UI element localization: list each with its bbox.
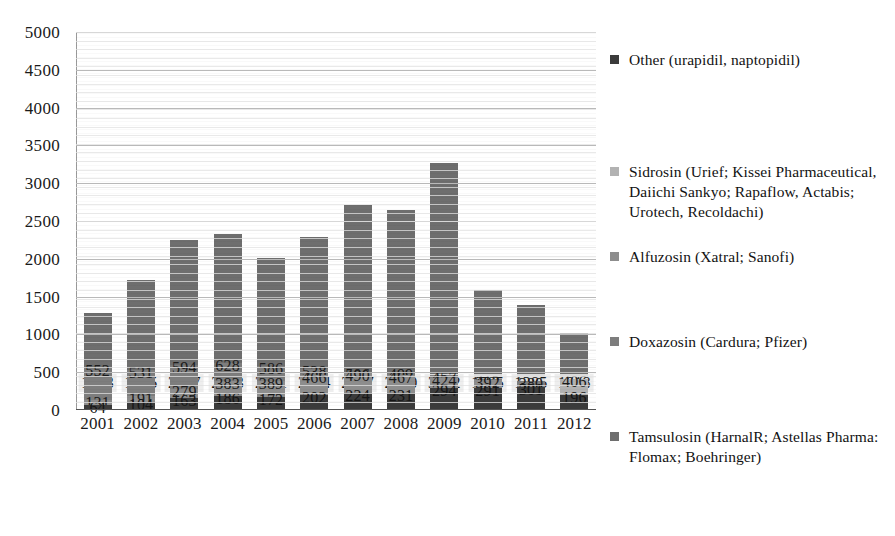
x-tick-label: 2006	[297, 414, 332, 434]
x-tick-label: 2010	[470, 414, 505, 434]
legend-swatch-icon	[610, 167, 619, 176]
x-tick-label: 2004	[210, 414, 245, 434]
gridline-minor	[76, 238, 596, 239]
gridline-minor	[76, 281, 596, 282]
gridline-minor	[76, 161, 596, 162]
gridline-minor	[76, 118, 596, 119]
gridline-minor	[76, 178, 596, 179]
legend-swatch-icon	[610, 337, 619, 346]
gridline	[76, 372, 596, 373]
legend-label: Sidrosin (Urief; Kissei Pharmaceutical, …	[629, 162, 887, 222]
y-tick-label: 4500	[25, 61, 60, 78]
gridline-minor	[76, 101, 596, 102]
legend-label: Other (urapidil, naptopidil)	[629, 50, 800, 70]
gridline-minor	[76, 41, 596, 42]
y-tick-label: 3500	[25, 137, 60, 154]
y-tick-label: 1500	[25, 288, 60, 305]
gridline-minor	[76, 393, 596, 394]
gridline	[76, 297, 596, 298]
y-tick-label: 2500	[25, 213, 60, 230]
gridline-minor	[76, 135, 596, 136]
gridline-minor	[76, 187, 596, 188]
y-axis: 0500100015002000250030003500400045005000	[0, 32, 68, 410]
y-tick-label: 500	[34, 364, 60, 381]
legend-item[interactable]: Alfuzosin (Xatral; Sanofi)	[610, 247, 794, 267]
x-axis-line	[76, 409, 596, 410]
gridline-minor	[76, 170, 596, 171]
x-tick-label: 2007	[340, 414, 375, 434]
gridline-minor	[76, 256, 596, 257]
x-tick-label: 2009	[427, 414, 462, 434]
gridline-minor	[76, 350, 596, 351]
y-tick-label: 4000	[25, 99, 60, 116]
gridline-minor	[76, 316, 596, 317]
gridline-minor	[76, 299, 596, 300]
gridline-minor	[76, 204, 596, 205]
gridline-minor	[76, 359, 596, 360]
gridline	[76, 70, 596, 71]
gridline-minor	[76, 152, 596, 153]
x-tick-label: 2012	[557, 414, 592, 434]
gridline-minor	[76, 367, 596, 368]
gridline-minor	[76, 92, 596, 93]
gridline-minor	[76, 324, 596, 325]
legend-item[interactable]: Doxazosin (Cardura; Pfizer)	[610, 332, 807, 352]
bar-value-label: 163	[172, 393, 197, 409]
legend-item[interactable]: Other (urapidil, naptopidil)	[610, 50, 800, 70]
gridline	[76, 183, 596, 184]
gridline-minor	[76, 213, 596, 214]
gridline-minor	[76, 264, 596, 265]
bar-group[interactable]: 2284538466202	[300, 146, 328, 410]
gridline-minor	[76, 84, 596, 85]
gridline-minor	[76, 144, 596, 145]
legend-swatch-icon	[610, 55, 619, 64]
gridline-minor	[76, 32, 596, 33]
gridline-minor	[76, 307, 596, 308]
legend-item[interactable]: Tamsulosin (HarnalR; Astellas Pharma: Fl…	[610, 427, 887, 467]
legend-label: Alfuzosin (Xatral; Sanofi)	[629, 247, 794, 267]
y-tick-label: 5000	[25, 24, 60, 41]
x-tick-label: 2008	[384, 414, 419, 434]
y-tick-label: 1000	[25, 326, 60, 343]
bar-value-label: 628	[215, 358, 240, 374]
gridline-minor	[76, 247, 596, 248]
gridline-minor	[76, 230, 596, 231]
bar-value-label: 389	[259, 376, 284, 392]
bar-group[interactable]: 1585413392204291	[474, 192, 502, 410]
plot-area: 1283552131641725531191104224759427916323…	[76, 32, 596, 410]
bar-value-label: 202	[302, 390, 327, 406]
x-tick-label: 2011	[514, 414, 548, 434]
legend-swatch-icon	[610, 432, 619, 441]
bar-value-label: 104	[129, 397, 154, 413]
gridline-minor	[76, 75, 596, 76]
gridline-minor	[76, 221, 596, 222]
gridline-minor	[76, 195, 596, 196]
legend-label: Doxazosin (Cardura; Pfizer)	[629, 332, 807, 352]
gridline-minor	[76, 109, 596, 110]
gridline-minor	[76, 127, 596, 128]
legend-item[interactable]: Sidrosin (Urief; Kissei Pharmaceutical, …	[610, 162, 887, 222]
gridline-minor	[76, 273, 596, 274]
gridline-minor	[76, 290, 596, 291]
gridline	[76, 334, 596, 335]
stacked-bar-chart: 0500100015002000250030003500400045005000…	[0, 0, 895, 536]
gridline-minor	[76, 333, 596, 334]
gridline	[76, 145, 596, 146]
bar-group[interactable]: 1385380259308301	[517, 211, 545, 410]
gridline	[76, 259, 596, 260]
gridline-minor	[76, 385, 596, 386]
chart-legend: Other (urapidil, naptopidil)Sidrosin (Ur…	[610, 32, 895, 482]
legend-swatch-icon	[610, 252, 619, 261]
bar-group[interactable]: 2707506490224	[344, 113, 372, 410]
y-tick-label: 0	[51, 402, 60, 419]
x-tick-label: 2002	[124, 414, 159, 434]
gridline-minor	[76, 49, 596, 50]
x-tick-label: 2005	[254, 414, 289, 434]
x-tick-label: 2003	[167, 414, 202, 434]
gridline-minor	[76, 66, 596, 67]
gridline-minor	[76, 376, 596, 377]
x-axis: 2001200220032004200520062007200820092010…	[76, 414, 596, 442]
bar-value-label: 172	[259, 392, 284, 408]
y-tick-label: 2000	[25, 250, 60, 267]
gridline-minor	[76, 402, 596, 403]
